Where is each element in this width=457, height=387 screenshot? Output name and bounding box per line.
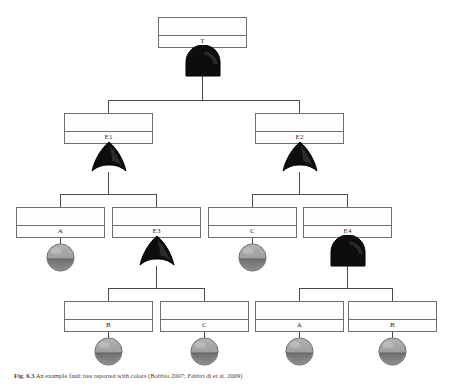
event-box-body <box>256 114 343 131</box>
basic-event-b-2[interactable] <box>378 337 407 366</box>
or-gate-e3[interactable] <box>137 235 177 267</box>
event-box-top[interactable]: T <box>158 17 247 48</box>
basic-event-b-1[interactable] <box>94 337 123 366</box>
and-gate-e4[interactable] <box>326 235 370 267</box>
event-box-body <box>65 114 152 131</box>
event-box-body <box>209 208 296 225</box>
event-label-a-left: A <box>17 225 104 237</box>
figure-caption: Fig. 6.3 An example fault tree reported … <box>14 371 446 380</box>
event-box-c-2[interactable]: C <box>160 301 249 332</box>
event-label-b-1: B <box>65 319 152 331</box>
figure-number: Fig. 6.3 <box>14 372 34 379</box>
event-box-a-left[interactable]: A <box>16 207 105 238</box>
event-box-e2[interactable]: E2 <box>255 113 344 144</box>
event-box-body <box>17 208 104 225</box>
event-label-c-2: C <box>161 319 248 331</box>
event-box-body <box>159 18 246 35</box>
or-gate-e1[interactable] <box>89 141 129 173</box>
event-box-body <box>304 208 391 225</box>
event-box-e1[interactable]: E1 <box>64 113 153 144</box>
event-box-b-1[interactable]: B <box>64 301 153 332</box>
basic-event-c-mid[interactable] <box>238 243 267 272</box>
figure-caption-text: An example fault tree reported with colo… <box>36 372 243 379</box>
event-box-body <box>161 302 248 319</box>
basic-event-c-2[interactable] <box>190 337 219 366</box>
basic-event-a-2[interactable] <box>285 337 314 366</box>
event-box-body <box>349 302 436 319</box>
event-box-body <box>113 208 200 225</box>
event-box-c-mid[interactable]: C <box>208 207 297 238</box>
event-box-body <box>65 302 152 319</box>
event-label-a-2: A <box>256 319 343 331</box>
event-label-c-mid: C <box>209 225 296 237</box>
event-box-b-2[interactable]: B <box>348 301 437 332</box>
event-box-e3[interactable]: E3 <box>112 207 201 238</box>
event-box-a-2[interactable]: A <box>255 301 344 332</box>
and-gate-top[interactable] <box>181 45 225 77</box>
or-gate-e2[interactable] <box>280 141 320 173</box>
event-box-e4[interactable]: E4 <box>303 207 392 238</box>
basic-event-a-left[interactable] <box>46 243 75 272</box>
fault-tree-figure: T E1 E2 A E3 C E4 B C A B <box>0 0 457 387</box>
event-box-body <box>256 302 343 319</box>
event-label-b-2: B <box>349 319 436 331</box>
